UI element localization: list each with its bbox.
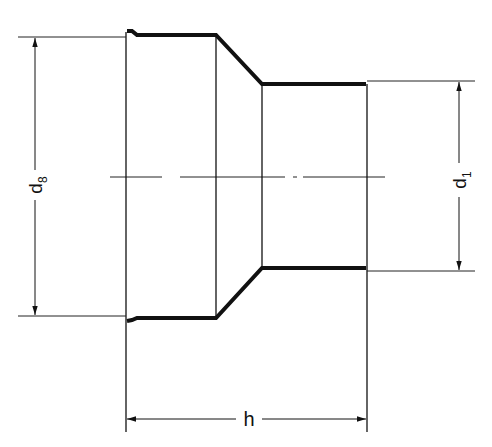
reducer-body (126, 32, 367, 432)
label-d8: d8 (25, 176, 50, 194)
label-d1: d1 (449, 171, 474, 189)
label-h: h (243, 408, 254, 430)
reducer-wall (127, 31, 366, 321)
reducer-drawing: d8 d1 h (0, 0, 492, 447)
